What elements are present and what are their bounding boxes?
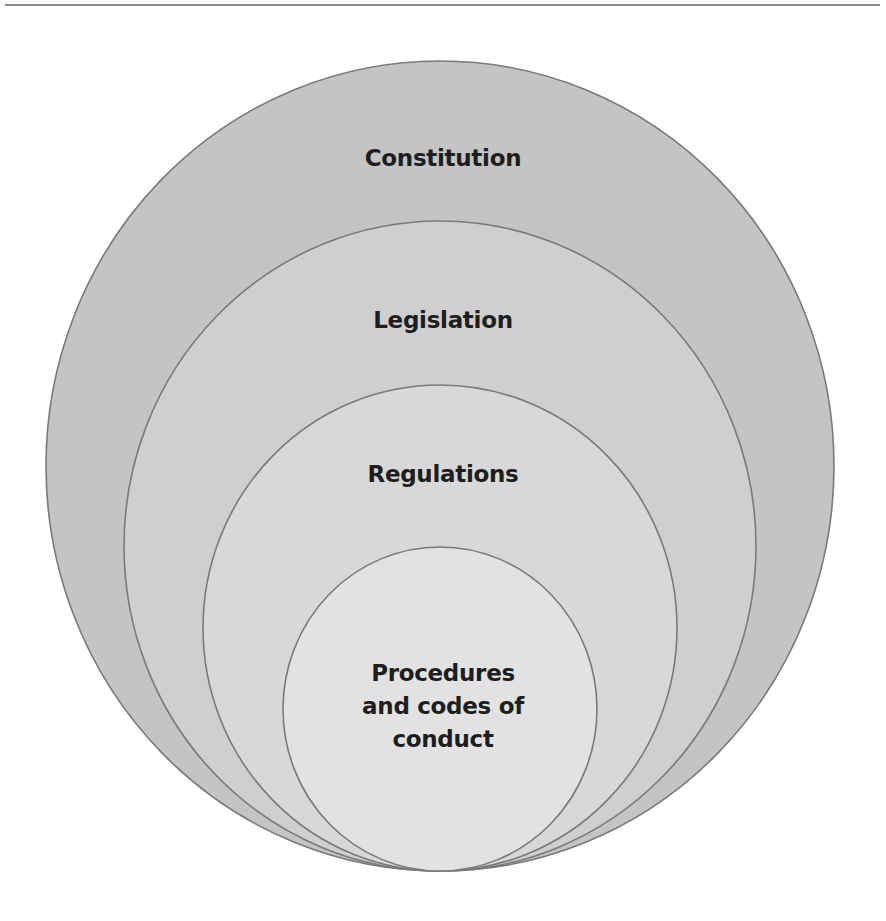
procedures-label-line-1: Procedures <box>0 657 886 690</box>
legislation-label: Legislation <box>0 307 886 333</box>
constitution-label: Constitution <box>0 145 886 171</box>
regulations-label: Regulations <box>0 461 886 487</box>
procedures-label-line-3: conduct <box>0 723 886 756</box>
procedures-label-line-2: and codes of <box>0 690 886 723</box>
procedures-label: Procedures and codes of conduct <box>0 657 886 756</box>
